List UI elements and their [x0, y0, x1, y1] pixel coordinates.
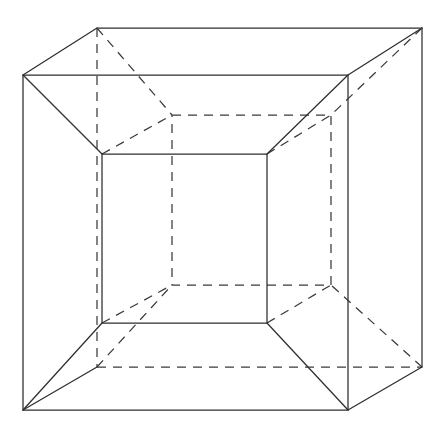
tesseract-figure — [0, 0, 446, 436]
tesseract-drawing — [0, 0, 446, 436]
figure-background — [0, 0, 446, 436]
